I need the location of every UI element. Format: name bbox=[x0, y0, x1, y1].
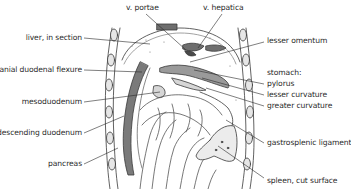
spleen bbox=[196, 126, 237, 162]
label-greater-curvature: greater curvature bbox=[267, 102, 332, 110]
label-v-portae: v. portae bbox=[126, 4, 159, 12]
label-v-hepatica: v. hepatica bbox=[203, 4, 244, 12]
label-pylorus: pylorus bbox=[267, 80, 294, 88]
label-mesoduodenum: mesoduodenum bbox=[22, 98, 82, 106]
label-spleen-cut-surface: spleen, cut surface bbox=[267, 177, 337, 185]
label-lesser-omentum: lesser omentum bbox=[267, 37, 327, 45]
right-body-wall bbox=[238, 28, 254, 189]
label-liver-in-section: liver, in section bbox=[26, 34, 82, 42]
mesoduodenum-shape bbox=[153, 85, 165, 97]
label-gastrosplenic-ligament: gastrosplenic ligament bbox=[267, 139, 351, 147]
label-descending-duodenum: descending duodenum bbox=[0, 129, 82, 137]
left-body-wall bbox=[105, 28, 120, 189]
label-pancreas: pancreas bbox=[48, 160, 82, 168]
label-lesser-curvature: lesser curvature bbox=[267, 91, 327, 99]
label-cranial-duodenal-flexure: cranial duodenal flexure bbox=[0, 66, 82, 74]
label-stomach: stomach: bbox=[267, 69, 301, 77]
